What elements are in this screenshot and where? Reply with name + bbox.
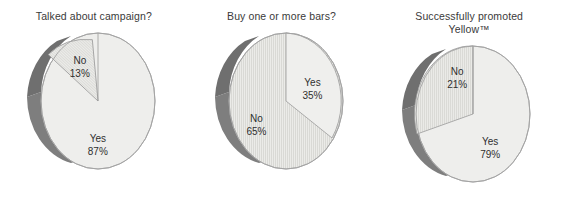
pie-chart-1: No 13% Yes 87% bbox=[19, 25, 169, 177]
pie-graphic bbox=[19, 25, 169, 177]
pie-graphic bbox=[394, 38, 544, 190]
chart-panel-talked-about-campaign: Talked about campaign? bbox=[0, 0, 188, 203]
pie-chart-figure: Talked about campaign? bbox=[0, 0, 563, 203]
chart-title: Buy one or more bars? bbox=[227, 10, 336, 23]
chart-panel-successfully-promoted-yellow: Successfully promoted Yellow™ No 21% Y bbox=[375, 0, 563, 203]
chart-panel-buy-one-or-more-bars: Buy one or more bars? No 65% Yes 35% bbox=[188, 0, 376, 203]
chart-title: Successfully promoted Yellow™ bbox=[415, 10, 523, 36]
pie-graphic bbox=[207, 25, 357, 177]
pie-chart-3: No 21% Yes 79% bbox=[394, 38, 544, 190]
chart-title: Talked about campaign? bbox=[36, 10, 152, 23]
pie-chart-2: No 65% Yes 35% bbox=[207, 25, 357, 177]
